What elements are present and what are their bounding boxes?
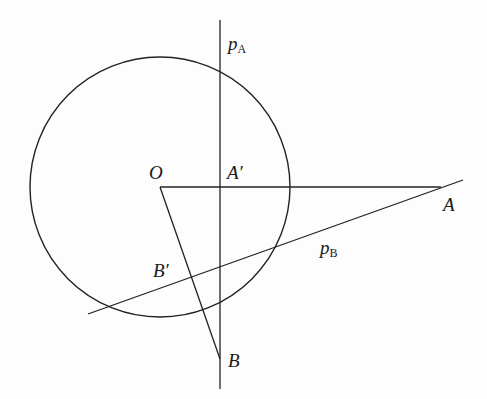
label-o: O <box>149 163 163 182</box>
label-p-a-main: p <box>228 33 238 54</box>
segment-o-b <box>160 187 220 359</box>
label-a-prime: A′ <box>227 163 243 182</box>
label-b-prime: B′ <box>153 261 169 280</box>
label-p-b-sub: B <box>330 246 338 260</box>
geometry-diagram: pA O A′ A pB B′ B <box>0 0 487 399</box>
label-a: A <box>443 195 455 214</box>
label-p-b: pB <box>320 238 338 257</box>
label-p-b-main: p <box>320 237 330 258</box>
label-p-a-sub: A <box>238 42 247 56</box>
label-p-a: pA <box>228 34 246 53</box>
label-b: B <box>228 351 240 370</box>
diagram-svg <box>0 0 487 399</box>
line-p-b <box>88 180 463 314</box>
